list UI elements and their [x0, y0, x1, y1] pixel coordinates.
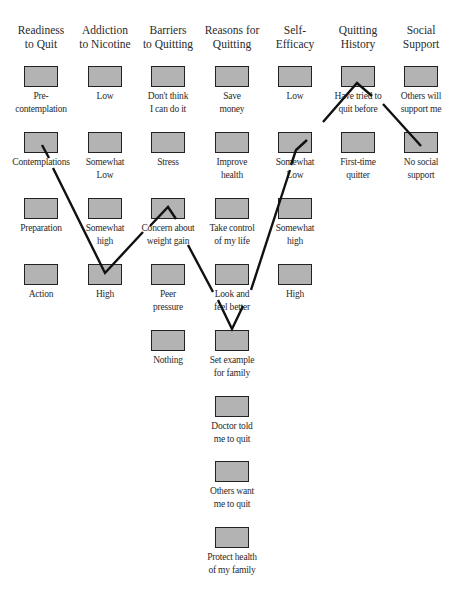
column-header-line: Barriers	[133, 23, 203, 37]
option-node-reasons[interactable]: Doctor toldme to quit	[192, 396, 272, 446]
option-box[interactable]	[215, 461, 249, 482]
option-label: High	[255, 288, 335, 301]
column-header-addiction: Addictionto Nicotine	[70, 23, 140, 51]
option-box[interactable]	[215, 198, 249, 219]
option-box[interactable]	[24, 132, 58, 153]
option-label: Others wantme to quit	[192, 485, 272, 511]
column-header-line: Readiness	[6, 23, 76, 37]
column-header-barriers: Barriersto Quitting	[133, 23, 203, 51]
column-header-line: to Quit	[6, 37, 76, 51]
column-header-readiness: Readinessto Quit	[6, 23, 76, 51]
option-box[interactable]	[88, 132, 122, 153]
column-header-line: Reasons for	[197, 23, 267, 37]
option-label-line: feel better	[192, 301, 272, 314]
option-box[interactable]	[24, 198, 58, 219]
option-label-line: me to quit	[192, 433, 272, 446]
option-node-self-efficacy[interactable]: High	[255, 264, 335, 301]
option-label-line: No social	[381, 156, 459, 169]
option-box[interactable]	[404, 66, 438, 87]
option-box[interactable]	[215, 396, 249, 417]
column-header-quitting-history: QuittingHistory	[323, 23, 393, 51]
column-header-line: Efficacy	[260, 37, 330, 51]
option-label-line: Protect health	[192, 551, 272, 564]
option-label-line: High	[255, 288, 335, 301]
option-box[interactable]	[24, 264, 58, 285]
option-node-reasons[interactable]: Protect healthof my family	[192, 527, 272, 577]
column-header-reasons: Reasons forQuitting	[197, 23, 267, 51]
option-node-social-support[interactable]: No socialsupport	[381, 132, 459, 182]
option-label: Somewhathigh	[255, 222, 335, 248]
option-label: Others willsupport me	[381, 90, 459, 116]
column-header-line: Quitting	[323, 23, 393, 37]
option-box[interactable]	[278, 198, 312, 219]
column-header-line: Self-	[260, 23, 330, 37]
option-label-line: Others want	[192, 485, 272, 498]
column-header-social-support: SocialSupport	[386, 23, 456, 51]
option-box[interactable]	[151, 198, 185, 219]
option-box[interactable]	[404, 132, 438, 153]
option-box[interactable]	[151, 264, 185, 285]
option-box[interactable]	[88, 264, 122, 285]
option-label-line: money	[192, 103, 272, 116]
option-label: No socialsupport	[381, 156, 459, 182]
option-box[interactable]	[88, 198, 122, 219]
option-box[interactable]	[278, 132, 312, 153]
option-node-social-support[interactable]: Others willsupport me	[381, 66, 459, 116]
option-box[interactable]	[215, 132, 249, 153]
option-box[interactable]	[278, 264, 312, 285]
option-label-line: support	[381, 169, 459, 182]
option-label: Protect healthof my family	[192, 551, 272, 577]
column-header-line: to Nicotine	[70, 37, 140, 51]
option-box[interactable]	[341, 132, 375, 153]
option-box[interactable]	[278, 66, 312, 87]
option-box[interactable]	[151, 330, 185, 351]
column-header-line: Support	[386, 37, 456, 51]
column-header-self-efficacy: Self-Efficacy	[260, 23, 330, 51]
column-header-line: History	[323, 37, 393, 51]
option-label: Doctor toldme to quit	[192, 420, 272, 446]
option-label-line: support me	[381, 103, 459, 116]
option-label-line: Low	[65, 169, 145, 182]
option-box[interactable]	[215, 527, 249, 548]
option-node-self-efficacy[interactable]: Somewhathigh	[255, 198, 335, 248]
option-node-reasons[interactable]: Set examplefor family	[192, 330, 272, 380]
column-header-line: Addiction	[70, 23, 140, 37]
option-box[interactable]	[88, 66, 122, 87]
option-label-line: high	[255, 235, 335, 248]
option-label-line: me to quit	[192, 498, 272, 511]
option-box[interactable]	[24, 66, 58, 87]
column-header-line: Social	[386, 23, 456, 37]
option-label-line: for family	[192, 367, 272, 380]
option-box[interactable]	[151, 66, 185, 87]
option-label-line: of my family	[192, 564, 272, 577]
option-label: Set examplefor family	[192, 354, 272, 380]
option-box[interactable]	[341, 66, 375, 87]
option-label-line: Set example	[192, 354, 272, 367]
option-box[interactable]	[151, 132, 185, 153]
option-box[interactable]	[215, 66, 249, 87]
option-box[interactable]	[215, 264, 249, 285]
option-label-line: Others will	[381, 90, 459, 103]
option-label-line: contemplation	[1, 103, 81, 116]
option-label-line: Doctor told	[192, 420, 272, 433]
option-box[interactable]	[215, 330, 249, 351]
column-header-line: Quitting	[197, 37, 267, 51]
column-header-line: to Quitting	[133, 37, 203, 51]
option-node-reasons[interactable]: Others wantme to quit	[192, 461, 272, 511]
option-label-line: Somewhat	[255, 222, 335, 235]
